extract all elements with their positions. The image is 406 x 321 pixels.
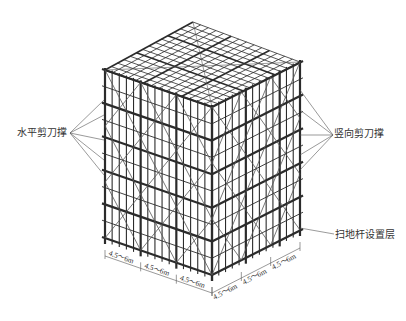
dimension-label-right-3: 4.5～6m	[270, 252, 297, 272]
dimension-label-left-3: 4.5～6m	[179, 273, 207, 290]
scaffold-structure	[102, 22, 303, 281]
scaffold-isometric-diagram: 4.5～6m4.5～6m4.5～6m4.5～6m4.5～6m4.5～6m	[0, 0, 406, 321]
dimension-label-left-2: 4.5～6m	[143, 261, 171, 278]
dimension-label-right-2: 4.5～6m	[241, 267, 268, 287]
leader-lines	[70, 90, 334, 234]
horizontal-brace-label: 水平剪刀撑	[17, 127, 67, 139]
vertical-brace-label: 竖向剪刀撑	[334, 128, 384, 140]
dimension-label-left-1: 4.5～6m	[108, 248, 136, 265]
dimension-label-right-1: 4.5～6m	[211, 282, 238, 302]
sweep-rod-layer-label: 扫地杆设置层	[335, 229, 395, 241]
